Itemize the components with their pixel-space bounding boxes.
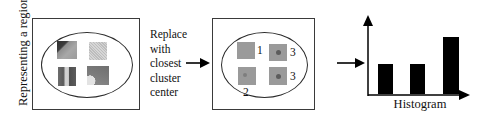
figure-root: Representing a region Replace with close… (0, 0, 491, 126)
histogram-chart: Histogram (335, 14, 485, 119)
cluster-label-1: 1 (257, 45, 263, 57)
replace-text-line-2: with (150, 42, 206, 57)
histogram-bars (368, 16, 478, 94)
panel-quantized-region: 1 3 2 3 (212, 18, 315, 110)
cluster-label-2: 3 (290, 47, 296, 59)
cluster-center-square-2 (269, 44, 287, 61)
replace-text-line-4: cluster (150, 71, 206, 86)
cluster-center-square-1 (237, 42, 255, 59)
region-ellipse-original (41, 32, 133, 98)
cluster-center-square-3 (238, 67, 256, 85)
histogram-bar-3 (443, 37, 459, 94)
arrow-right-icon-replace (186, 55, 212, 71)
replace-text-line-1: Replace (150, 27, 206, 42)
image-patch-1 (57, 41, 77, 59)
region-ellipse-quantized (221, 32, 308, 98)
image-patch-3 (58, 67, 76, 86)
cluster-label-3: 2 (243, 87, 249, 99)
histogram-caption: Histogram (365, 98, 475, 111)
vertical-caption: Representing a region (17, 0, 30, 110)
cluster-label-4: 3 (290, 71, 296, 83)
histogram-bar-1 (378, 64, 393, 94)
replace-text-line-5: center (150, 85, 206, 100)
image-patch-4 (87, 66, 109, 85)
cluster-center-square-4 (269, 67, 287, 85)
image-patch-2 (89, 42, 107, 60)
histogram-bar-2 (410, 64, 425, 94)
panel-original-region (32, 18, 140, 110)
